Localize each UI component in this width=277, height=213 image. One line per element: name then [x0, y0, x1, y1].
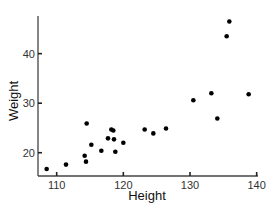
- data-point: [82, 153, 87, 158]
- data-point: [121, 141, 126, 146]
- data-point: [246, 92, 251, 97]
- data-point: [106, 136, 111, 141]
- data-point: [142, 127, 147, 132]
- y-axis-ticks: 203040: [23, 48, 42, 159]
- data-point: [151, 131, 156, 136]
- data-point: [215, 116, 220, 121]
- x-tick-label: 140: [247, 179, 265, 191]
- data-point: [227, 19, 232, 24]
- data-point: [64, 162, 69, 167]
- data-point: [191, 98, 196, 103]
- data-point: [84, 121, 89, 126]
- x-axis-label: Height: [128, 188, 166, 203]
- data-point: [113, 149, 118, 154]
- data-point: [164, 126, 169, 131]
- x-tick-label: 110: [48, 179, 66, 191]
- data-point: [99, 148, 104, 153]
- data-point: [84, 159, 89, 164]
- x-tick-label: 130: [181, 179, 199, 191]
- data-point: [89, 142, 94, 147]
- plot-area: [44, 19, 251, 171]
- y-axis-label: Weight: [6, 81, 21, 122]
- data-point: [44, 167, 49, 172]
- y-tick-label: 20: [23, 147, 35, 159]
- scatter-chart: 203040 110120130140 Height Weight: [0, 0, 277, 213]
- data-point: [111, 128, 116, 133]
- data-point: [112, 137, 117, 142]
- data-point: [209, 91, 214, 96]
- data-point: [224, 34, 229, 39]
- y-tick-label: 40: [23, 48, 35, 60]
- y-tick-label: 30: [23, 97, 35, 109]
